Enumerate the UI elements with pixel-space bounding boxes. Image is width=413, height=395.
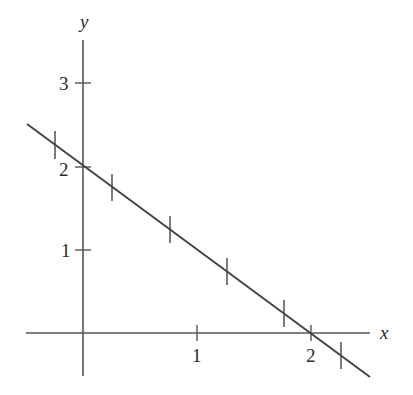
x-axis-label: x xyxy=(379,322,389,343)
x-tick-label-2: 2 xyxy=(306,345,316,366)
x-tick-label-1: 1 xyxy=(192,345,202,366)
y-tick-label-3: 3 xyxy=(59,73,69,94)
graph-figure: y x 3 2 1 1 2 xyxy=(0,0,413,395)
y-axis-label: y xyxy=(78,11,89,32)
y-tick-label-1: 1 xyxy=(61,240,71,261)
y-tick-label-2: 2 xyxy=(59,159,69,180)
